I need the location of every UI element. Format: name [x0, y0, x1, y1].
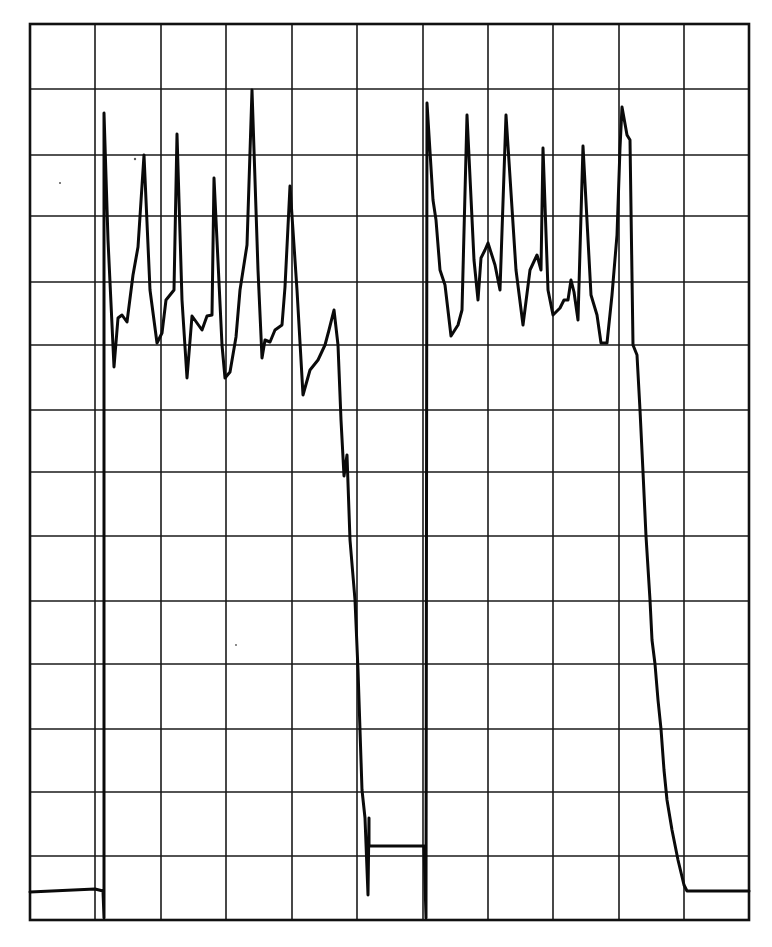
signal-trace	[30, 90, 749, 918]
graticule-grid	[30, 24, 749, 920]
dust-speck	[235, 644, 237, 646]
chart-canvas	[0, 0, 772, 947]
dust-speck	[134, 158, 136, 160]
dust-speck	[59, 182, 61, 184]
oscilloscope-chart	[0, 0, 772, 947]
